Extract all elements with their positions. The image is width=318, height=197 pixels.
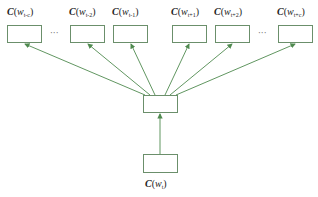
connection-arrows <box>0 0 318 197</box>
